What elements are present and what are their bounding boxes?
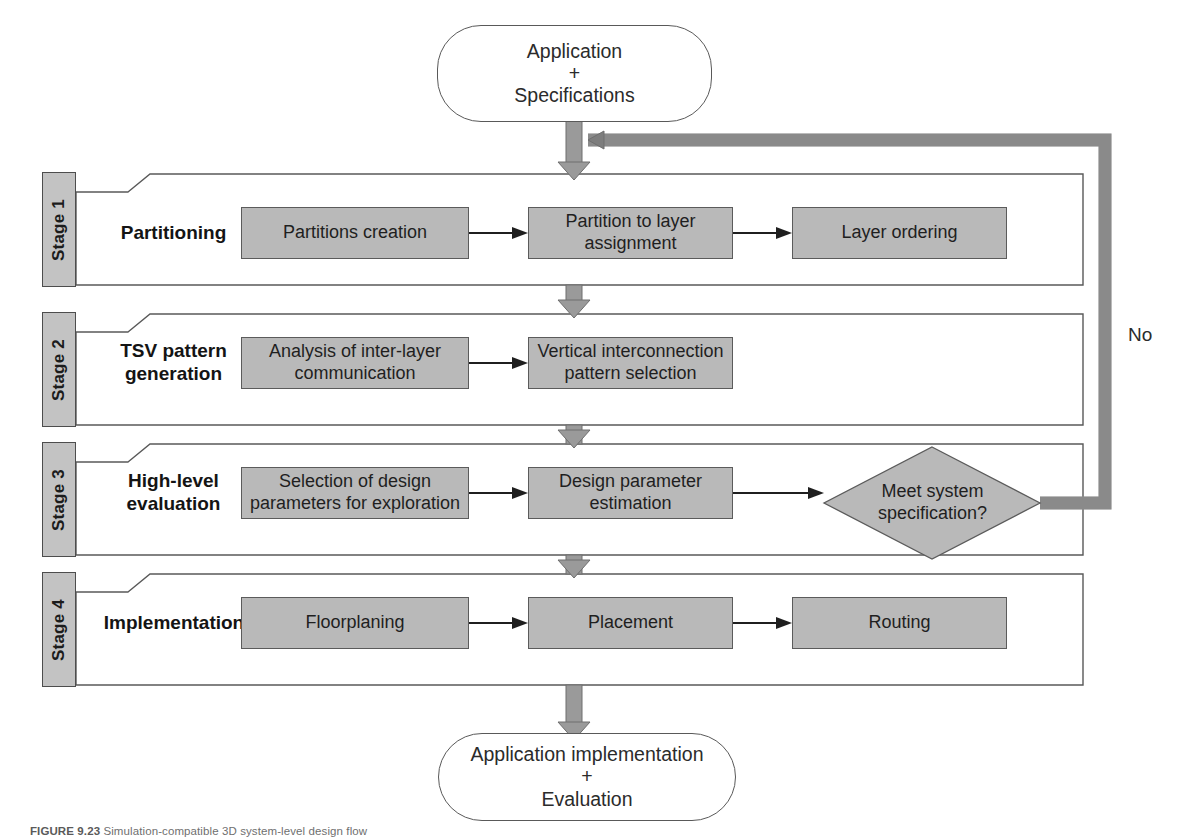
stage-3-step-1[interactable]: Selection of design parameters for explo… — [241, 467, 469, 519]
stage-3-step-2[interactable]: Design parameter estimation — [528, 467, 733, 519]
spine-connector-stage1-stage2 — [558, 285, 590, 318]
stage-2-step-1-line2: communication — [294, 363, 415, 385]
end-line2: Evaluation — [541, 788, 632, 811]
stage-2-title-line1: TSV pattern — [120, 340, 227, 363]
arrow-stage4-step1-step2 — [469, 617, 528, 629]
stage-3-step-2-line1: Design parameter — [559, 471, 702, 493]
spine-connector-stage2-stage3 — [558, 425, 590, 448]
stage-2-title: TSV pattern generation — [96, 338, 251, 388]
figure-caption-text: Simulation-compatible 3D system-level de… — [103, 825, 367, 837]
stage-2-step-1[interactable]: Analysis of inter-layer communication — [241, 337, 469, 389]
arrow-stage1-step1-step2 — [469, 227, 528, 239]
decision-line2: specification? — [878, 503, 987, 525]
stage-4-title: Implementation — [88, 598, 260, 648]
stage-tab-2: Stage 2 — [42, 312, 76, 427]
end-line1: Application implementation — [470, 743, 703, 766]
stage-1-step-3[interactable]: Layer ordering — [792, 207, 1007, 259]
figure-caption-number: 9.23 — [77, 825, 100, 837]
decision-label: Meet system specification? — [845, 477, 1020, 529]
arrow-stage4-step2-step3 — [733, 617, 792, 629]
stage-3-title-line2: evaluation — [127, 493, 221, 516]
stage-4-step-1[interactable]: Floorplaning — [241, 597, 469, 649]
stage-tab-1: Stage 1 — [42, 172, 76, 287]
start-line1: Application — [527, 40, 622, 63]
stage-1-title-line1: Partitioning — [121, 222, 227, 245]
decision-line1: Meet system — [881, 481, 983, 503]
figure-caption: FIGURE 9.23 Simulation-compatible 3D sys… — [30, 825, 367, 837]
stage-tab-3-label: Stage 3 — [49, 469, 69, 531]
end-terminal-node: Application implementation + Evaluation — [438, 733, 736, 821]
stage-tab-3: Stage 3 — [42, 442, 76, 557]
arrow-stage3-step1-step2 — [469, 487, 528, 499]
stage-tab-1-label: Stage 1 — [49, 199, 69, 261]
stage-4-step-2[interactable]: Placement — [528, 597, 733, 649]
stage-4-step-2-line1: Placement — [588, 612, 673, 634]
stage-4-step-3-line1: Routing — [868, 612, 930, 634]
stage-1-step-2[interactable]: Partition to layer assignment — [528, 207, 733, 259]
start-plus: + — [569, 64, 580, 84]
stage-3-step-2-line2: estimation — [589, 493, 671, 515]
stage-2-step-1-line1: Analysis of inter-layer — [269, 341, 441, 363]
stage-1-step-1-line1: Partitions creation — [283, 222, 427, 244]
arrow-stage1-step2-step3 — [733, 227, 792, 239]
stage-2-title-line2: generation — [125, 363, 222, 386]
stage-3-step-1-line2: parameters for exploration — [250, 493, 460, 515]
stage-tab-4: Stage 4 — [42, 572, 76, 687]
spine-connector-start — [558, 121, 590, 180]
end-plus: + — [581, 767, 592, 787]
stage-2-step-2-line2: pattern selection — [564, 363, 696, 385]
start-line2: Specifications — [514, 84, 634, 107]
spine-connector-end — [558, 685, 590, 740]
arrow-stage2-step1-step2 — [469, 357, 528, 369]
decision-diamond — [824, 447, 1040, 559]
stage-tab-4-label: Stage 4 — [49, 599, 69, 661]
stage-3-title: High-level evaluation — [96, 468, 251, 518]
stage-4-step-3[interactable]: Routing — [792, 597, 1007, 649]
spine-connector-stage3-stage4 — [558, 555, 590, 578]
stage-3-step-1-line1: Selection of design — [279, 471, 431, 493]
stage-tab-2-label: Stage 2 — [49, 339, 69, 401]
arrow-stage3-step2-decision — [733, 487, 824, 499]
stage-1-title: Partitioning — [96, 208, 251, 258]
stage-1-step-1[interactable]: Partitions creation — [241, 207, 469, 259]
start-terminal-node: Application + Specifications — [437, 25, 712, 122]
stage-4-step-1-line1: Floorplaning — [305, 612, 404, 634]
stage-1-step-3-line1: Layer ordering — [841, 222, 957, 244]
stage-1-step-2-line1: Partition to layer — [565, 211, 695, 233]
stage-4-title-line1: Implementation — [104, 612, 244, 635]
stage-1-step-2-line2: assignment — [584, 233, 676, 255]
stage-3-title-line1: High-level — [128, 470, 219, 493]
stage-2-step-2[interactable]: Vertical interconnection pattern selecti… — [528, 337, 733, 389]
figure-caption-prefix: FIGURE — [30, 825, 74, 837]
feedback-no-label: No — [1128, 324, 1152, 346]
feedback-loop-arrow — [588, 131, 1105, 503]
stage-2-step-2-line1: Vertical interconnection — [537, 341, 723, 363]
